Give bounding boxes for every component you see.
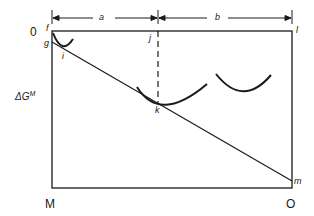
- dimension-label-a: a: [99, 13, 104, 22]
- point-label-l: l: [296, 26, 298, 35]
- diagram-frame: [52, 31, 292, 188]
- corner-label-m: M: [45, 198, 55, 210]
- free-energy-curve-2: [137, 84, 207, 105]
- dimension-b-arrow: [159, 10, 292, 24]
- corner-label-o: O: [286, 198, 295, 210]
- free-energy-curve-3: [216, 74, 271, 91]
- point-label-k: k: [155, 106, 160, 115]
- dimension-a-arrow: [52, 10, 158, 24]
- axis-label-superscript: M: [30, 90, 36, 97]
- point-label-i: i: [62, 52, 64, 61]
- axis-label-delta-gm: ΔGM: [15, 90, 35, 102]
- axis-label-base: ΔG: [15, 91, 30, 102]
- point-label-g: g: [44, 39, 49, 48]
- point-label-m: m: [294, 177, 302, 186]
- common-tangent-line: [52, 42, 292, 181]
- dimension-label-b: b: [215, 13, 220, 22]
- corner-label-zero: 0: [30, 26, 37, 38]
- point-label-f: f: [46, 24, 49, 33]
- point-label-j: j: [149, 34, 151, 43]
